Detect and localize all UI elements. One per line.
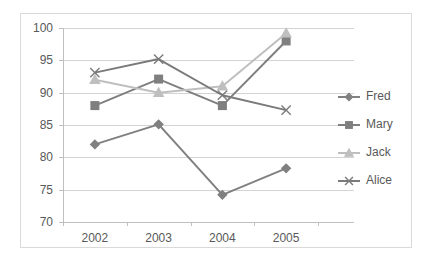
series-lines	[90, 29, 290, 199]
series-mary	[91, 37, 290, 109]
data-point-triangle	[345, 149, 353, 156]
data-point-square	[155, 75, 163, 83]
line-chart: 707580859095100 2002200320042005 FredMar…	[0, 0, 436, 263]
series-line-fred	[95, 124, 286, 194]
x-tick-labels: 2002200320042005	[82, 231, 300, 245]
data-point-square	[346, 122, 352, 128]
data-point-square	[91, 102, 99, 110]
legend-label: Jack	[366, 145, 392, 159]
x-tick-label: 2004	[209, 231, 236, 245]
legend-label: Alice	[366, 173, 392, 187]
data-point-square	[219, 102, 227, 110]
x-axis	[63, 222, 354, 226]
legend-item-mary[interactable]: Mary	[338, 117, 393, 131]
legend-item-jack[interactable]: Jack	[338, 145, 392, 159]
data-point-triangle	[282, 29, 291, 37]
y-tick-label: 70	[40, 215, 54, 229]
y-tick-label: 95	[40, 53, 54, 67]
data-point-diamond	[345, 93, 352, 100]
y-tick-label: 100	[33, 21, 53, 35]
gridlines	[63, 29, 354, 223]
y-tick-label: 90	[40, 86, 54, 100]
series-line-jack	[95, 33, 286, 92]
series-fred	[91, 120, 291, 199]
data-point-diamond	[91, 140, 99, 148]
data-point-square	[282, 37, 290, 45]
y-tick-label: 80	[40, 150, 54, 164]
legend-label: Fred	[366, 89, 391, 103]
legend-label: Mary	[366, 117, 393, 131]
series-line-mary	[95, 41, 286, 106]
x-tick-label: 2005	[273, 231, 300, 245]
chart-legend: FredMaryJackAlice	[338, 89, 393, 187]
y-tick-label: 75	[40, 183, 54, 197]
data-point-diamond	[282, 164, 290, 172]
legend-item-fred[interactable]: Fred	[338, 89, 391, 103]
series-jack	[90, 29, 290, 97]
y-tick-labels: 707580859095100	[33, 21, 53, 229]
x-tick-label: 2003	[145, 231, 172, 245]
y-tick-label: 85	[40, 118, 54, 132]
y-axis	[59, 28, 64, 223]
x-tick-label: 2002	[82, 231, 109, 245]
legend-item-alice[interactable]: Alice	[338, 173, 392, 187]
